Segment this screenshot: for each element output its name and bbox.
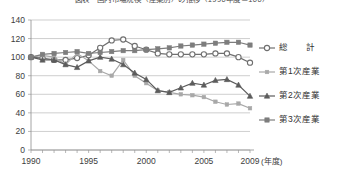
data-point-marker (264, 45, 269, 50)
data-point-marker (190, 80, 195, 85)
data-point-marker (202, 95, 206, 99)
data-point-marker (40, 52, 44, 56)
data-point-marker (156, 47, 160, 51)
data-point-marker (190, 43, 194, 47)
y-axis-tick-label: 40 (16, 108, 26, 118)
y-axis-tick-label: 140 (11, 15, 25, 25)
legend-label: 第2次産業 (279, 90, 320, 100)
data-point-marker (213, 51, 218, 56)
data-point-marker (144, 77, 149, 82)
data-point-marker (236, 55, 241, 60)
data-point-marker (86, 51, 90, 55)
data-point-marker (190, 52, 195, 57)
y-axis-tick-label: 100 (11, 52, 25, 62)
data-point-marker (29, 55, 33, 59)
data-point-marker (109, 38, 114, 43)
x-axis-tick-label: 2005 (194, 156, 213, 166)
data-point-marker (265, 118, 269, 122)
data-point-marker (191, 93, 195, 97)
legend-item-2[interactable]: 第1次産業 (259, 66, 320, 76)
data-point-marker (225, 40, 229, 44)
data-point-marker (98, 45, 103, 50)
data-point-marker (236, 40, 240, 44)
data-point-marker (121, 48, 125, 52)
data-point-marker (132, 43, 137, 48)
data-point-marker (202, 42, 206, 46)
data-point-marker (98, 69, 102, 73)
data-point-marker (121, 37, 126, 42)
y-axis-tick-label: 120 (11, 34, 25, 44)
series-4 (29, 40, 252, 59)
data-point-marker (133, 48, 137, 52)
data-point-marker (179, 92, 183, 96)
data-point-marker (75, 49, 79, 53)
x-axis-tick-label: 2000 (137, 156, 156, 166)
data-point-marker (109, 49, 113, 53)
data-point-marker (155, 51, 160, 56)
data-point-marker (98, 50, 102, 54)
x-axis-unit-label: (年度) (261, 156, 283, 166)
line-chart-plot: 02040608010012014019901995200020052009(年… (0, 0, 344, 179)
y-axis-tick-label: 60 (16, 89, 26, 99)
data-point-marker (237, 102, 241, 106)
data-point-marker (265, 70, 269, 74)
data-point-marker (167, 46, 171, 50)
x-axis-tick-label: 1990 (22, 156, 41, 166)
data-point-marker (179, 44, 183, 48)
y-axis-tick-label: 80 (16, 71, 26, 81)
series-3 (28, 54, 252, 98)
data-point-marker (110, 74, 114, 78)
y-axis-tick-label: 20 (16, 126, 26, 136)
chart-container: 図表 国内市場規模（産業別）の推移（1990年度＝100） 0204060801… (0, 0, 344, 179)
legend-item-3[interactable]: 第2次産業 (259, 90, 320, 100)
data-point-marker (247, 60, 252, 65)
data-point-marker (213, 41, 217, 45)
legend-item-4[interactable]: 第3次産業 (259, 114, 320, 124)
data-point-marker (167, 52, 172, 57)
legend-label: 第3次産業 (279, 114, 320, 124)
data-point-marker (214, 100, 218, 104)
data-point-marker (178, 52, 183, 57)
series-1 (28, 37, 252, 65)
data-point-marker (75, 55, 80, 60)
y-axis-tick-label: 0 (20, 145, 25, 155)
data-point-marker (52, 51, 56, 55)
data-point-marker (224, 51, 229, 56)
legend-label: 第1次産業 (279, 66, 320, 76)
legend-label: 総 計 (279, 42, 315, 52)
data-point-marker (63, 50, 67, 54)
x-axis-tick-label: 2009 (241, 156, 260, 166)
data-point-marker (144, 48, 148, 52)
data-point-marker (225, 103, 229, 107)
data-point-marker (201, 52, 206, 57)
legend-item-1[interactable]: 総 計 (259, 42, 315, 52)
x-axis-tick-label: 1995 (79, 156, 98, 166)
data-point-marker (248, 43, 252, 47)
data-point-marker (248, 106, 252, 110)
